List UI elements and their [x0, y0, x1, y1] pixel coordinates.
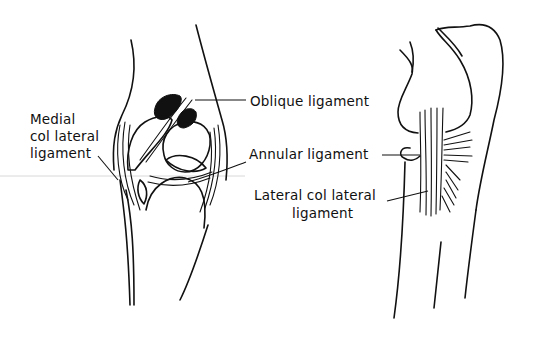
radius-edge — [180, 225, 208, 300]
central-recess — [138, 180, 147, 204]
ulna-outer — [120, 180, 130, 305]
radius-inner-edge — [434, 242, 441, 308]
annular-fan-fiber — [444, 140, 472, 145]
elbow-ligament-diagram: Medial col lateral ligament Oblique liga… — [0, 0, 556, 337]
anterior-elbow-drawing — [98, 25, 246, 305]
ulna-shaft-edge — [465, 210, 476, 298]
label-lateral-collateral-line1: Lateral col lateral — [254, 187, 376, 203]
annular-fan-fiber — [444, 147, 470, 150]
label-oblique-ligament: Oblique ligament — [250, 93, 369, 109]
annular-fan-fiber — [444, 132, 470, 140]
olecranon-crest — [438, 28, 462, 56]
radius-shaft-edge — [394, 162, 405, 318]
medial-collateral-fiber — [128, 125, 140, 210]
label-lateral-collateral-line2: ligament — [292, 205, 353, 221]
lateral-collateral-fiber — [436, 108, 437, 214]
annular-fan-fiber — [446, 172, 458, 190]
label-medial-line3: ligament — [30, 145, 91, 161]
lateral-collateral-leader — [387, 191, 428, 201]
humerus-medial-edge — [113, 40, 134, 170]
fat-pad-lower — [177, 109, 196, 128]
annular-fan-fiber — [446, 165, 460, 180]
humerus-lateral-edge — [398, 50, 418, 133]
lateral-elbow-drawing — [382, 25, 503, 318]
annular-fan-fiber — [444, 155, 472, 156]
lateral-collateral-fiber — [440, 108, 443, 210]
label-medial-line1: Medial — [30, 111, 76, 127]
annular-fan-fiber — [446, 180, 456, 198]
fat-pad-upper — [154, 95, 181, 120]
label-annular-ligament: Annular ligament — [249, 146, 369, 162]
annular-fan-fiber — [444, 160, 468, 162]
lateral-collateral-fiber — [420, 112, 421, 212]
radial-head-outline — [166, 156, 206, 172]
label-medial-line2: col lateral — [30, 128, 99, 144]
annular-fan-fiber — [442, 196, 450, 212]
lateral-collateral-fiber — [425, 110, 426, 215]
diagram-artwork — [0, 0, 556, 337]
radial-head-loop — [401, 148, 420, 160]
